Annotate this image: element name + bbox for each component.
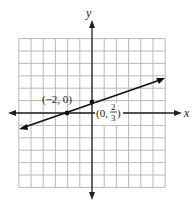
y-axis-down-arrow-icon [89, 192, 95, 200]
x-axis-label: x [183, 106, 190, 120]
point-marker [90, 100, 95, 105]
y-axis-label: y [85, 6, 92, 20]
point-neg2-0: (−2, 0) [42, 93, 72, 115]
fraction-numerator: 2 [111, 102, 116, 112]
point-label-prefix: (0, [96, 107, 108, 120]
point-label-neg2-0: (−2, 0) [42, 93, 72, 106]
y-axis-up-arrow-icon [89, 20, 95, 28]
x-axis-right-arrow-icon [174, 110, 182, 116]
x-axis-left-arrow-icon [8, 110, 16, 116]
point-label-suffix: ) [117, 107, 121, 120]
point-marker [65, 111, 70, 116]
coordinate-plane: x y (−2, 0) (0, 2 3 ) [0, 0, 194, 205]
fraction-denominator: 3 [111, 113, 116, 123]
